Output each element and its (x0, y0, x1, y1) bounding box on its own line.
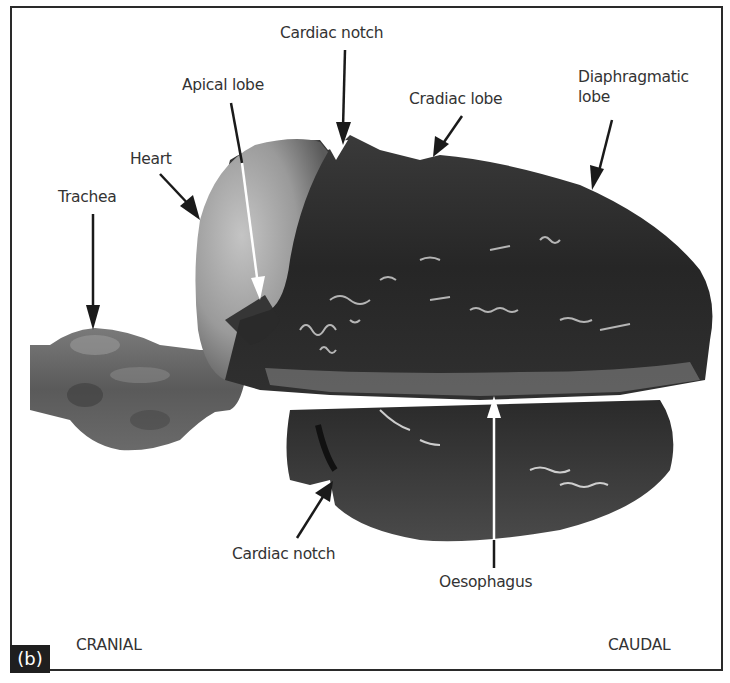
label-apical-lobe: Apical lobe (182, 76, 264, 95)
label-cardiac-notch-top: Cardiac notch (280, 24, 383, 43)
label-diaphragmatic-lobe-line2: lobe (578, 88, 610, 107)
label-cardiac-notch-bottom: Cardiac notch (232, 545, 335, 564)
label-cradiac-lobe: Cradiac lobe (409, 90, 502, 109)
label-heart: Heart (130, 150, 172, 169)
panel-label-badge: (b) (10, 645, 50, 673)
lower-lung-lobe (287, 400, 674, 541)
label-diaphragmatic-lobe: Diaphragmatic (578, 68, 689, 87)
orientation-caudal: CAUDAL (608, 636, 670, 654)
lung-specimen-photo (0, 0, 730, 683)
orientation-cranial: CRANIAL (76, 636, 142, 654)
label-oesophagus: Oesophagus (439, 573, 532, 592)
label-trachea: Trachea (58, 188, 116, 207)
